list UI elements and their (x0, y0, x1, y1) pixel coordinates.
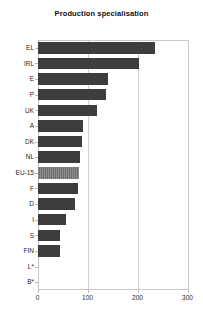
category-label-s: S (30, 228, 34, 244)
value-tick-label-100: 100 (82, 294, 93, 301)
bar-row (38, 228, 189, 244)
category-label-a: A (30, 118, 34, 134)
bar-row (38, 56, 189, 72)
category-label-e: E (30, 71, 34, 87)
category-tick-row: E (0, 71, 34, 87)
category-label-b-: B* (27, 274, 34, 290)
category-tick-row: S (0, 228, 34, 244)
bar-fin[interactable] (38, 245, 60, 257)
category-tick-row: EL (0, 40, 34, 56)
category-tick-row: NL (0, 149, 34, 165)
bar-eu-15[interactable] (38, 167, 79, 179)
bar-row (38, 118, 189, 134)
bar-e[interactable] (38, 73, 108, 85)
category-tick-row: D (0, 196, 34, 212)
category-label-eu-15: EU-15 (16, 165, 34, 181)
category-tick-row: UK (0, 103, 34, 119)
bar-row (38, 149, 189, 165)
bar-a[interactable] (38, 120, 83, 132)
value-tick-label-200: 200 (132, 294, 143, 301)
category-tick-row: IRL (0, 56, 34, 72)
bar-el[interactable] (38, 42, 155, 54)
value-tick-mark-0 (38, 290, 39, 293)
value-tick-mark-100 (88, 290, 89, 293)
bar-row (38, 259, 189, 275)
bar-row (38, 181, 189, 197)
category-tick-row: EU-15 (0, 165, 34, 181)
category-tick-row: A (0, 118, 34, 134)
category-tick-row: B* (0, 274, 34, 290)
value-tick-mark-300 (188, 290, 189, 293)
bar-uk[interactable] (38, 105, 97, 117)
category-label-fin: FIN (24, 243, 34, 259)
category-tick-row: I (0, 212, 34, 228)
value-tick-label-0: 0 (36, 294, 40, 301)
bar-p[interactable] (38, 89, 106, 101)
bar-f[interactable] (38, 183, 78, 195)
bar-i[interactable] (38, 214, 66, 226)
chart-title: Production specialisation (0, 9, 203, 18)
category-label-irl: IRL (24, 56, 34, 72)
bars-layer (38, 40, 189, 290)
bar-irl[interactable] (38, 58, 139, 70)
bar-d[interactable] (38, 198, 75, 210)
value-tick-label-300: 300 (182, 294, 193, 301)
category-label-f: F (30, 181, 34, 197)
category-label-uk: UK (25, 103, 34, 119)
bar-row (38, 103, 189, 119)
category-label-nl: NL (26, 149, 34, 165)
category-tick-row: P (0, 87, 34, 103)
bar-row (38, 274, 189, 290)
value-tick-mark-200 (138, 290, 139, 293)
bar-nl[interactable] (38, 151, 81, 163)
bar-row (38, 196, 189, 212)
category-label-l-: L* (28, 259, 34, 275)
bar-row (38, 212, 189, 228)
bar-dk[interactable] (38, 136, 82, 148)
bar-row (38, 243, 189, 259)
category-axis: ELIRLEPUKADKNLEU-15FDISFINL*B* (0, 40, 34, 290)
bar-row (38, 40, 189, 56)
category-label-el: EL (26, 40, 34, 56)
category-tick-row: FIN (0, 243, 34, 259)
category-tick-row: L* (0, 259, 34, 275)
production-specialisation-chart: Production specialisation ELIRLEPUKADKNL… (0, 0, 203, 325)
category-label-dk: DK (25, 134, 34, 150)
bar-row (38, 165, 189, 181)
bar-row (38, 87, 189, 103)
category-label-d: D (29, 196, 34, 212)
category-tick-row: DK (0, 134, 34, 150)
category-label-p: P (30, 87, 34, 103)
value-axis: 0100200300 (0, 290, 203, 310)
bar-row (38, 71, 189, 87)
bar-row (38, 134, 189, 150)
bar-s[interactable] (38, 230, 61, 242)
category-tick-row: F (0, 181, 34, 197)
